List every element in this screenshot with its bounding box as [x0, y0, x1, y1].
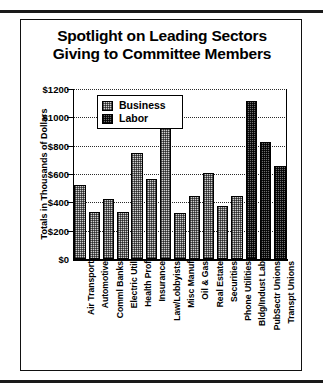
bar[interactable]: [160, 113, 171, 259]
chart-legend: Business Labor: [97, 95, 183, 129]
bar[interactable]: [146, 179, 157, 259]
bar[interactable]: [74, 185, 85, 259]
x-tick-label: Misc Manuf: [184, 261, 198, 308]
y-tick-label: $600: [48, 169, 69, 180]
y-tick-label: $200: [48, 225, 69, 236]
x-tick-label: Phone Utilities: [241, 261, 255, 321]
legend-label-business: Business: [119, 100, 166, 111]
bar[interactable]: [89, 212, 100, 259]
y-tick-label: $1000: [43, 112, 69, 123]
x-tick-label: Oil & Gas: [198, 261, 212, 300]
y-tick-label: $1200: [43, 84, 69, 95]
chart-title: Spotlight on Leading Sectors Giving to C…: [21, 27, 303, 63]
bottom-rule-divider: [0, 380, 323, 383]
x-tick-label: Comml Banks: [113, 261, 127, 318]
y-tick-label: $800: [48, 140, 69, 151]
legend-label-labor: Labor: [119, 113, 148, 124]
chart-figure: Spotlight on Leading Sectors Giving to C…: [20, 19, 302, 371]
chart-title-line-1: Spotlight on Leading Sectors: [21, 27, 303, 45]
bar[interactable]: [103, 199, 114, 259]
x-tick-label: PubSectr Unions: [270, 261, 284, 330]
newspaper-chart-clipping: Spotlight on Leading Sectors Giving to C…: [0, 0, 323, 389]
x-tick-label: Health Prof: [141, 261, 155, 307]
x-tick-label: Securities: [227, 261, 241, 302]
bar[interactable]: [174, 213, 185, 259]
legend-item-business: Business: [102, 99, 178, 112]
bar[interactable]: [117, 212, 128, 259]
bar[interactable]: [231, 196, 242, 259]
bar[interactable]: [189, 196, 200, 259]
bar[interactable]: [131, 153, 142, 259]
x-tick-label: Automotive: [98, 261, 112, 308]
y-tick-label: $400: [48, 197, 69, 208]
bar[interactable]: [203, 173, 214, 259]
bar[interactable]: [217, 206, 228, 259]
top-rule-divider: [0, 10, 323, 13]
y-axis-tick-labels: $0$200$400$600$800$1000$1200: [21, 89, 69, 259]
legend-swatch-labor-icon: [102, 114, 113, 124]
x-tick-label: Real Estate: [213, 261, 227, 307]
chart-title-line-2: Giving to Committee Members: [21, 45, 303, 63]
x-axis-tick-labels: Air TransportAutomotiveComml BanksElectr…: [73, 261, 287, 361]
x-tick-label: Insurance: [155, 261, 169, 302]
x-tick-label: Electric Util: [127, 261, 141, 308]
bar[interactable]: [246, 101, 257, 259]
bar[interactable]: [260, 142, 271, 259]
x-tick-label: Air Transport: [84, 261, 98, 315]
legend-item-labor: Labor: [102, 112, 178, 125]
y-tick-label: $0: [58, 254, 69, 265]
x-tick-label: Bldg/Indust Lab: [255, 261, 269, 326]
x-tick-label: Law/Lobbyists: [170, 261, 184, 321]
x-tick-label: Transpt Unions: [284, 261, 298, 324]
bar[interactable]: [274, 166, 285, 259]
legend-swatch-business-icon: [102, 101, 113, 111]
